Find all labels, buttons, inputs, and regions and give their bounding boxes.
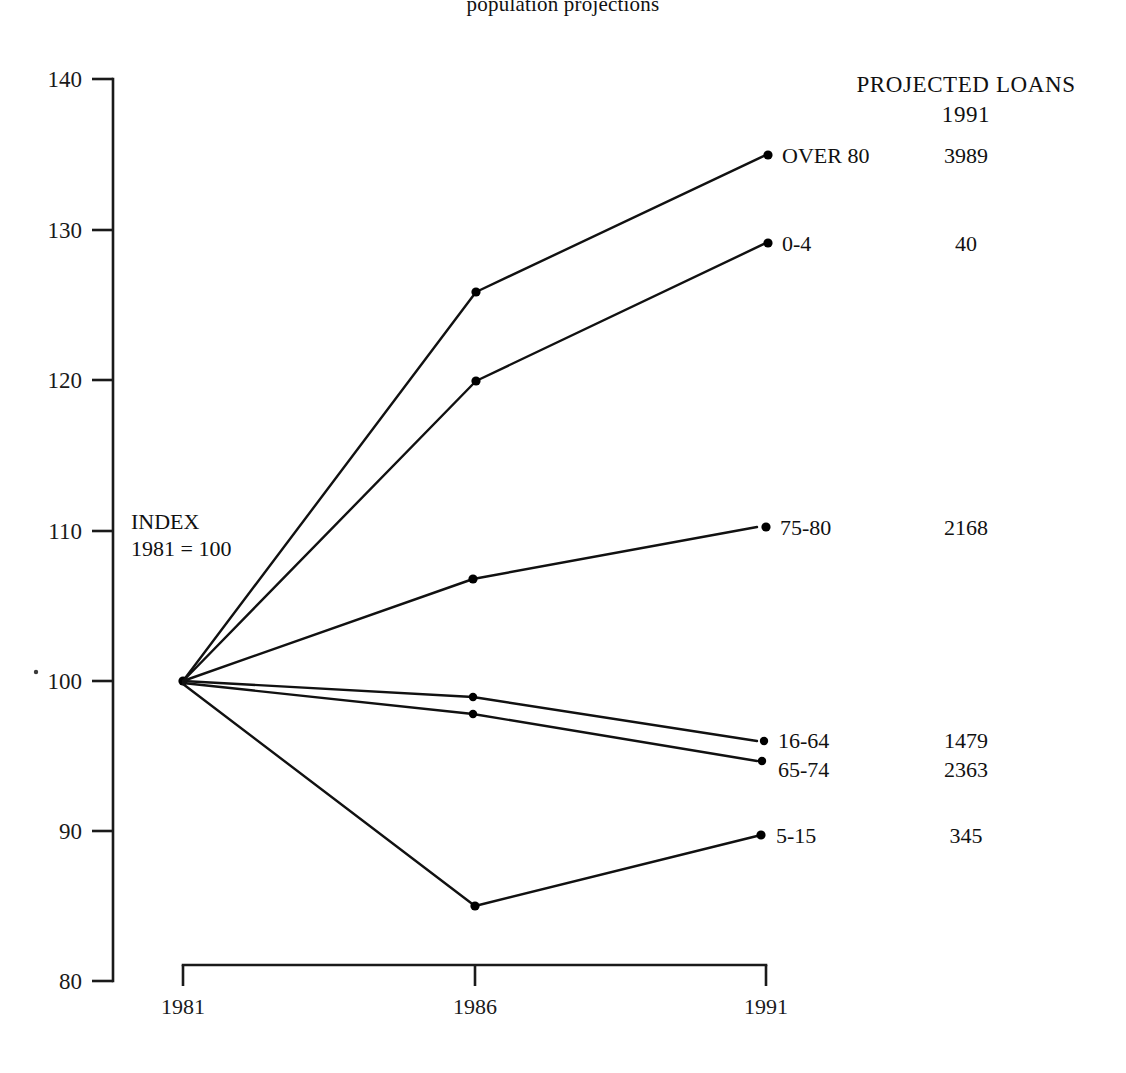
y-tick-label-90: 90 bbox=[59, 819, 82, 844]
x-tick-label-1991: 1991 bbox=[744, 994, 788, 1019]
series-0-4-line bbox=[183, 243, 766, 681]
chart-page: population projections 140 130 120 110 1… bbox=[0, 0, 1126, 1073]
legend-heading: PROJECTED LOANS 1991 bbox=[856, 72, 1075, 127]
x-tick-label-1981: 1981 bbox=[161, 994, 205, 1019]
series-75-80: 75-80 2168 bbox=[183, 515, 988, 681]
series-0-4-point-1986 bbox=[471, 376, 480, 385]
series-65-74-label: 65-74 bbox=[778, 757, 829, 782]
y-tick-label-100: 100 bbox=[48, 669, 83, 694]
series-75-80-point-1991 bbox=[761, 522, 770, 531]
series-16-64-point-1991 bbox=[760, 737, 768, 745]
series-65-74-point-1986 bbox=[469, 710, 477, 718]
series-0-4-point-1991 bbox=[763, 238, 772, 247]
series-16-64-loan-value: 1479 bbox=[944, 728, 988, 753]
series-65-74-point-1991 bbox=[758, 757, 766, 765]
y-tick-label-140: 140 bbox=[48, 67, 83, 92]
x-axis: 1981 1986 1991 bbox=[161, 965, 788, 1019]
index-note-line2: 1981 = 100 bbox=[131, 536, 231, 561]
legend-heading-line1: PROJECTED LOANS bbox=[856, 72, 1075, 97]
y-tick-label-120: 120 bbox=[48, 368, 83, 393]
series-5-15-line bbox=[183, 684, 757, 906]
series-75-80-label: 75-80 bbox=[780, 515, 831, 540]
series-16-64-label: 16-64 bbox=[778, 728, 829, 753]
series-over-80: OVER 80 3989 bbox=[178, 143, 988, 686]
series-5-15-point-1986 bbox=[470, 901, 479, 910]
series-0-4: 0-4 40 bbox=[183, 231, 977, 681]
series-16-64: 16-64 1479 bbox=[183, 681, 988, 753]
series-5-15-point-1991 bbox=[756, 830, 765, 839]
series-75-80-loan-value: 2168 bbox=[944, 515, 988, 540]
series-16-64-point-1986 bbox=[469, 693, 477, 701]
y-tick-label-80: 80 bbox=[59, 969, 82, 994]
series-over-80-line bbox=[183, 155, 766, 681]
index-annotation: INDEX 1981 = 100 bbox=[131, 509, 231, 561]
series-over-80-point-1991 bbox=[763, 150, 772, 159]
series-16-64-line bbox=[183, 681, 757, 741]
series-over-80-label: OVER 80 bbox=[782, 143, 869, 168]
y-tick-label-130: 130 bbox=[48, 218, 83, 243]
population-projections-line-chart: 140 130 120 110 100 90 80 1981 1986 1991… bbox=[0, 0, 1126, 1073]
y-axis: 140 130 120 110 100 90 80 bbox=[48, 67, 114, 994]
series-over-80-point-1986 bbox=[471, 287, 480, 296]
x-tick-label-1986: 1986 bbox=[453, 994, 497, 1019]
series-75-80-point-1986 bbox=[468, 574, 477, 583]
index-note-line1: INDEX bbox=[131, 509, 200, 534]
y-tick-label-110: 110 bbox=[48, 519, 82, 544]
series-5-15: 5-15 345 bbox=[183, 684, 983, 911]
series-65-74: 65-74 2363 bbox=[183, 683, 988, 782]
scan-speck bbox=[34, 670, 38, 674]
series-0-4-label: 0-4 bbox=[782, 231, 811, 256]
series-65-74-loan-value: 2363 bbox=[944, 757, 988, 782]
series-5-15-loan-value: 345 bbox=[950, 823, 983, 848]
series-5-15-label: 5-15 bbox=[776, 823, 816, 848]
legend-heading-line2: 1991 bbox=[942, 102, 990, 127]
series-0-4-loan-value: 40 bbox=[955, 231, 977, 256]
series-over-80-loan-value: 3989 bbox=[944, 143, 988, 168]
series-75-80-line bbox=[183, 527, 757, 681]
